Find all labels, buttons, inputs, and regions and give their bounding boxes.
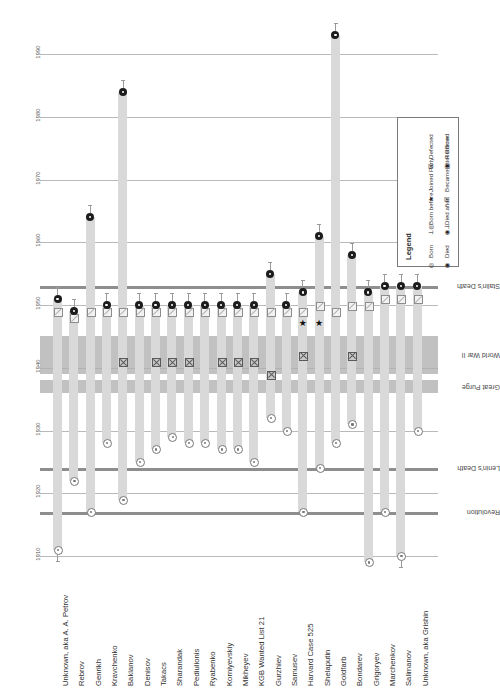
died-after-cap-icon [317, 224, 321, 225]
category-label: Sharandak [175, 649, 184, 686]
died-icon [103, 301, 111, 309]
life-bar [217, 305, 226, 449]
event-label-great-purge: Great Purge [462, 384, 500, 391]
life-bar [135, 305, 144, 462]
life-bar [167, 305, 176, 437]
returned-icon [332, 308, 341, 317]
died-after-cap-icon [268, 262, 272, 263]
life-bar [53, 299, 62, 550]
intel-officer-icon [299, 352, 308, 361]
born-icon [414, 427, 423, 436]
life-bar [102, 305, 111, 443]
died-after-cap-icon [105, 293, 109, 294]
category-label: Mikheyev [241, 654, 250, 686]
died-after-tick-icon [57, 288, 58, 295]
returned-icon [299, 308, 308, 317]
life-bar [151, 305, 160, 449]
died-after-tick-icon [221, 294, 222, 301]
died-icon [217, 301, 225, 309]
intel-officer-icon [250, 358, 259, 367]
category-label: Harvard Case 525 [306, 624, 315, 686]
life-bar [86, 217, 95, 512]
died-icon [201, 301, 209, 309]
intel-officer-icon [234, 358, 243, 367]
born-icon [299, 508, 308, 517]
died-after-tick-icon [155, 294, 156, 301]
ytick-label-1960: 1960 [35, 225, 41, 255]
died-after-cap-icon [56, 287, 60, 288]
died-after-tick-icon [74, 300, 75, 307]
life-bar [396, 286, 405, 556]
legend-box: Legend Born◎Born before⊥◎Joined Party★De… [397, 117, 459, 267]
born-icon [218, 445, 227, 454]
ytick-label-1930: 1930 [35, 414, 41, 444]
intel-officer-icon [168, 358, 177, 367]
born-icon [168, 433, 177, 442]
joined-party-icon: ★ [427, 196, 434, 202]
died-after-cap-icon [72, 299, 76, 300]
died-icon [250, 301, 258, 309]
life-bar [413, 286, 422, 430]
died-after-icon: ◉⊥ [443, 224, 450, 235]
died-after-cap-icon [236, 293, 240, 294]
returned-icon [267, 308, 276, 317]
life-bar [331, 35, 340, 443]
died-icon: ◉ [443, 263, 450, 268]
category-label: Unknown, aka A. A. Petrov [61, 595, 70, 686]
died-after-cap-icon [399, 274, 403, 275]
category-label: Salimanov [404, 650, 413, 686]
died-icon [54, 295, 62, 303]
category-label: Takacs [159, 662, 168, 686]
defected-icon: ☒ [427, 163, 434, 169]
intel-officer-icon [218, 358, 227, 367]
category-label: Marchenkov [388, 644, 397, 686]
intel-officer-icon [119, 358, 128, 367]
category-label: Gurzhiev [274, 655, 283, 686]
joined-party-icon: ★ [298, 319, 307, 328]
event-label-world-war-ii: World War II [461, 352, 500, 359]
born-icon [87, 508, 96, 517]
plot-area: 191019201930194019501960197019801990Revo… [40, 18, 438, 558]
returned-icon [87, 308, 96, 317]
born-icon [185, 439, 194, 448]
event-line-stalin-s-death [40, 286, 438, 289]
died-icon [266, 270, 274, 278]
born-icon [136, 458, 145, 467]
died-after-cap-icon [88, 205, 92, 206]
returned-icon [152, 308, 161, 317]
born-icon [119, 496, 128, 505]
born-icon [316, 464, 325, 473]
life-bar [249, 305, 258, 462]
ytick-label-1970: 1970 [35, 163, 41, 193]
intel-officer-icon [152, 358, 161, 367]
life-bar [364, 292, 373, 562]
event-label-revolution: Revolution [467, 509, 500, 516]
gridline-1990 [40, 54, 438, 55]
returned-icon [348, 302, 357, 311]
category-label: Ryabenko [208, 651, 217, 686]
born-icon [283, 427, 292, 436]
died-icon [397, 282, 405, 290]
died-after-cap-icon [219, 293, 223, 294]
ytick-label-1980: 1980 [35, 100, 41, 130]
event-line-revolution [40, 512, 438, 515]
returned-icon [185, 308, 194, 317]
born-icon [70, 477, 79, 486]
returned-icon [218, 308, 227, 317]
category-label: Pediulionis [192, 649, 201, 686]
died-icon [381, 282, 389, 290]
died-after-tick-icon [335, 24, 336, 31]
died-icon [152, 301, 160, 309]
gridline-1980 [40, 117, 438, 118]
died-after-tick-icon [188, 294, 189, 301]
returned-icon [381, 295, 390, 304]
category-label: KGB Wanted List 21 [257, 617, 266, 686]
died-after-tick-icon [90, 206, 91, 213]
died-after-tick-icon [401, 275, 402, 282]
life-bar [282, 305, 291, 431]
died-after-cap-icon [350, 243, 354, 244]
returned-icon [250, 308, 259, 317]
returned-icon [119, 308, 128, 317]
category-label: Baklanov [126, 654, 135, 686]
died-after-tick-icon [139, 294, 140, 301]
